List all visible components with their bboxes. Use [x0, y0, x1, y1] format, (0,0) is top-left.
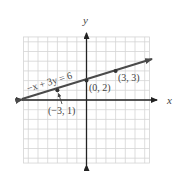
point-0-2: [85, 79, 89, 83]
graph-svg: x y −x + 3y = 6 (−3, 1) (0, 2) (3, 3): [0, 0, 184, 181]
point-neg3-1: [55, 88, 59, 92]
point-3-3: [114, 69, 118, 73]
pointer-arrow-icon: [59, 94, 63, 105]
point-label-3-3: (3, 3): [118, 72, 140, 84]
point-label-0-2: (0, 2): [89, 82, 111, 94]
point-label-neg3-1: (−3, 1): [48, 105, 75, 117]
x-axis-label: x: [166, 94, 172, 106]
coordinate-plane-figure: x y −x + 3y = 6 (−3, 1) (0, 2) (3, 3): [0, 0, 184, 181]
y-axis-label: y: [82, 14, 88, 26]
